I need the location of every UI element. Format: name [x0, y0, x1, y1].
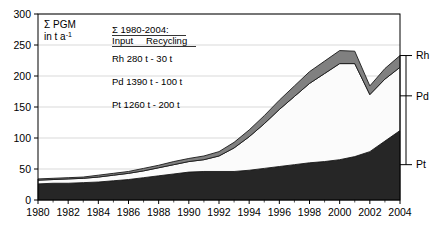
- stacked-area-chart: 050100150200250300 198019821984198619881…: [0, 0, 442, 234]
- x-tick-label-1980: 1980: [26, 206, 50, 218]
- legend-row-pt: Pt 1260 t - 200 t: [112, 99, 180, 110]
- x-axis: 1980198219841986198819901992199419961998…: [26, 200, 412, 218]
- x-tick-label-1990: 1990: [177, 206, 201, 218]
- x-tick-label-1982: 1982: [56, 206, 80, 218]
- legend-header-input: Input: [112, 35, 133, 46]
- x-tick-label-1992: 1992: [207, 206, 231, 218]
- series-label-rh: Rh: [416, 49, 430, 61]
- x-tick-label-1988: 1988: [147, 206, 171, 218]
- y-tick-label-50: 50: [19, 163, 31, 175]
- x-tick-label-1986: 1986: [117, 206, 141, 218]
- y-tick-label-200: 200: [13, 70, 31, 82]
- legend-row-rh: Rh 280 t - 30 t: [112, 53, 173, 64]
- series-label-pd: Pd: [416, 90, 429, 102]
- y-axis-title-line1: Σ PGM: [44, 19, 76, 30]
- y-tick-label-300: 300: [13, 8, 31, 20]
- x-tick-label-1984: 1984: [87, 206, 111, 218]
- series-labels-right: RhPdPt: [400, 49, 430, 170]
- y-tick-label-150: 150: [13, 101, 31, 113]
- x-tick-label-2000: 2000: [328, 206, 352, 218]
- legend-row-pd: Pd 1390 t - 100 t: [112, 76, 183, 87]
- y-tick-label-250: 250: [13, 39, 31, 51]
- x-tick-label-1998: 1998: [298, 206, 322, 218]
- series-label-pt: Pt: [416, 158, 426, 170]
- x-tick-label-2002: 2002: [358, 206, 382, 218]
- x-tick-label-1996: 1996: [268, 206, 292, 218]
- y-tick-label-100: 100: [13, 132, 31, 144]
- chart-figure: 050100150200250300 198019821984198619881…: [0, 0, 442, 234]
- x-tick-label-1994: 1994: [237, 206, 261, 218]
- legend-header-recycling: Recycling: [146, 35, 187, 46]
- legend-header-sum: Σ 1980-2004:: [112, 24, 169, 35]
- y-tick-label-0: 0: [25, 194, 31, 206]
- x-tick-label-2004: 2004: [388, 206, 412, 218]
- y-axis: 050100150200250300: [13, 8, 38, 206]
